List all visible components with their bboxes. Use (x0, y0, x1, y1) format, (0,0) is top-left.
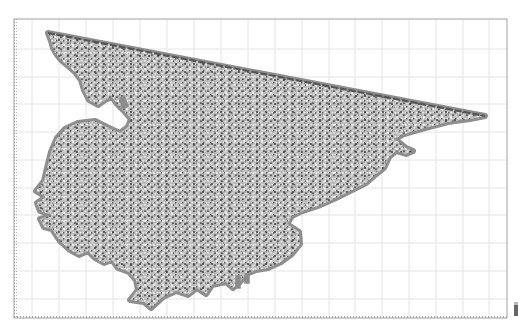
mesh-plot-canvas (0, 0, 520, 334)
triangular-mesh (36, 33, 485, 308)
south-stub-2 (245, 274, 249, 283)
south-stub-1 (236, 276, 240, 288)
side-scale-marker (514, 302, 518, 316)
left-axis-ticks (14, 19, 17, 318)
bottom-axis-ticks (14, 315, 507, 318)
